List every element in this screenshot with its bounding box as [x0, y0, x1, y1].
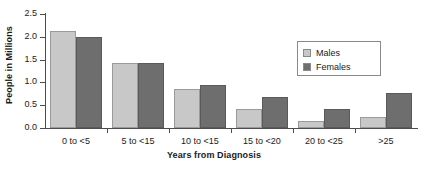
legend-swatch-males-icon	[303, 49, 311, 57]
legend-item-females: Females	[303, 60, 375, 73]
bar-females-0	[76, 37, 102, 128]
bar-males-3	[236, 109, 262, 128]
bar-females-2	[200, 85, 226, 128]
bar-males-4	[298, 121, 324, 128]
bar-males-0	[50, 31, 76, 128]
x-axis-tick	[169, 128, 170, 133]
legend-label-males: Males	[316, 48, 340, 58]
x-axis-title: Years from Diagnosis	[14, 150, 414, 160]
bar-males-1	[112, 63, 138, 128]
bar-females-4	[324, 109, 350, 128]
bar-males-5	[360, 117, 386, 128]
x-axis-tick	[231, 128, 232, 133]
x-axis-tick	[107, 128, 108, 133]
y-axis-tick-label: 1.0	[7, 77, 37, 86]
y-axis-tick-label: 0.0	[7, 123, 37, 132]
x-axis-tick-label: >25	[346, 136, 426, 146]
legend-swatch-females-icon	[303, 63, 311, 71]
chart-legend: Males Females	[297, 41, 381, 76]
bar-females-5	[386, 93, 412, 128]
bar-females-1	[138, 63, 164, 128]
bar-females-3	[262, 97, 288, 128]
y-axis-tick-label: 2.0	[7, 32, 37, 41]
y-axis-tick-label: 0.5	[7, 100, 37, 109]
x-axis-tick	[355, 128, 356, 133]
x-axis-tick	[293, 128, 294, 133]
legend-label-females: Females	[316, 62, 351, 72]
y-axis-tick-label: 2.5	[7, 9, 37, 18]
legend-item-males: Males	[303, 46, 375, 59]
bar-chart: People in Millions Years from Diagnosis …	[0, 0, 429, 171]
bar-males-2	[174, 89, 200, 128]
y-axis-tick	[40, 128, 45, 129]
y-axis-tick-label: 1.5	[7, 55, 37, 64]
